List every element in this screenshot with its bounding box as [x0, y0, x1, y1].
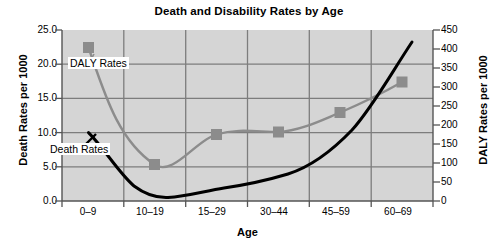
chart-container: Death and Disability Rates by Age Death … — [0, 0, 498, 247]
daly-rates-label: DALY Rates — [68, 57, 129, 69]
y-axis-left-ticks — [55, 30, 62, 201]
death-rates-label: Death Rates — [48, 143, 110, 155]
daly-marker-60-69 — [397, 77, 408, 88]
plot-area — [0, 0, 498, 247]
daly-marker-15-29 — [211, 129, 222, 140]
daly-marker-30-44 — [273, 127, 284, 138]
daly-marker-0-9 — [83, 42, 94, 53]
daly-marker-10-19 — [149, 159, 160, 170]
x-axis-ticks — [62, 201, 433, 207]
daly-marker-45-59 — [335, 107, 346, 118]
y-axis-right-ticks — [433, 30, 440, 201]
